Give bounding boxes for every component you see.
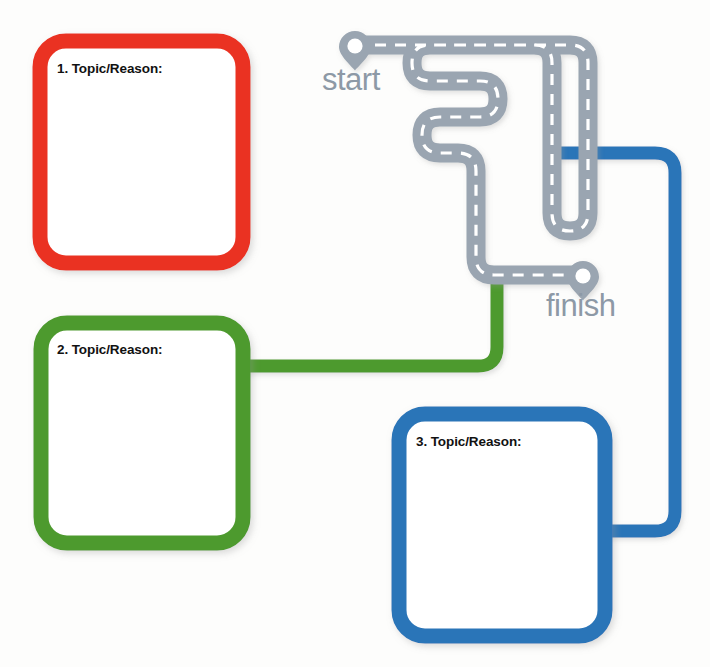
finish-label: finish bbox=[546, 288, 615, 324]
topic-box-3-label: 3. Topic/Reason: bbox=[416, 434, 521, 449]
topic-box-2-label: 2. Topic/Reason: bbox=[57, 342, 162, 357]
start-label: start bbox=[322, 62, 380, 98]
diagram-canvas: 1. Topic/Reason: 2. Topic/Reason: 3. Top… bbox=[0, 0, 710, 667]
topic-box-1-label: 1. Topic/Reason: bbox=[57, 61, 162, 76]
box-layer bbox=[0, 0, 710, 667]
